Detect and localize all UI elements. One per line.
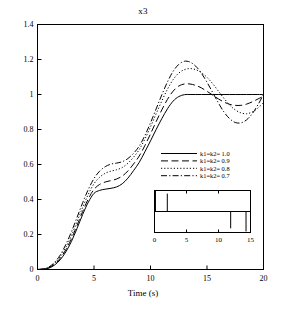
x-tick-label: 20 <box>260 274 268 283</box>
inset-x-tick-label: 15 <box>247 236 255 244</box>
figure-container: x3 00.20.40.60.811.21.4 05101520 k1=k2= … <box>0 0 286 316</box>
y-tick-label: 1 <box>30 90 34 99</box>
legend-entry-labels: k1=k2= 1.0k1=k2= 0.9k1=k2= 0.8k1=k2= 0.7 <box>200 150 230 179</box>
x-tick-label: 5 <box>92 274 96 283</box>
x-tick-label: 15 <box>203 274 211 283</box>
y-tick-label: 0.2 <box>24 230 34 239</box>
y-tick-label: 1.4 <box>24 20 34 29</box>
x-axis-tick-labels: 05101520 <box>36 274 268 283</box>
y-tick-label: 0.6 <box>24 160 34 169</box>
y-tick-label: 0.8 <box>24 125 34 134</box>
y-tick-label: 1.2 <box>24 55 34 64</box>
x-tick-label: 0 <box>36 274 40 283</box>
chart-plot-area: 00.20.40.60.811.21.4 05101520 k1=k2= 1.0… <box>0 0 286 316</box>
data-series-line <box>38 61 264 269</box>
legend-entry-label: k1=k2= 1.0 <box>200 150 230 157</box>
y-axis-tick-marks <box>38 25 42 270</box>
inset-x-tick-labels: 051015 <box>153 236 255 244</box>
data-series-group <box>38 61 264 269</box>
data-series-line <box>38 94 264 269</box>
legend-line-samples <box>161 154 197 176</box>
y-axis-tick-labels: 00.20.40.60.811.21.4 <box>24 20 34 274</box>
legend-entry-label: k1=k2= 0.8 <box>200 165 230 172</box>
y-tick-label: 0 <box>30 265 34 274</box>
inset-x-tick-label: 5 <box>185 236 189 244</box>
x-axis-tick-marks <box>38 266 264 270</box>
chart-legend: k1=k2= 1.0k1=k2= 0.9k1=k2= 0.8k1=k2= 0.7 <box>161 150 230 179</box>
inset-subplot: 051015 <box>153 191 255 244</box>
legend-entry-label: k1=k2= 0.7 <box>200 172 230 179</box>
inset-x-tick-label: 10 <box>215 236 223 244</box>
legend-entry-label: k1=k2= 0.9 <box>200 157 230 164</box>
inset-x-tick-label: 0 <box>153 236 157 244</box>
x-axis-title: Time (s) <box>0 288 286 298</box>
y-tick-label: 0.4 <box>24 195 34 204</box>
x-tick-label: 10 <box>147 274 155 283</box>
inset-signal-trace <box>155 191 251 232</box>
